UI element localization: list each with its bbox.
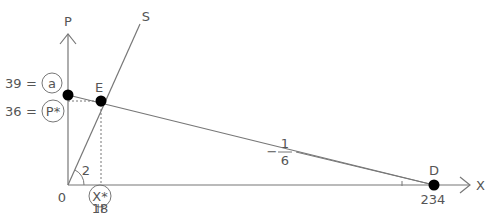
- point-e: [96, 96, 107, 107]
- demand-slope-sign: −: [267, 144, 278, 159]
- point-d-label: D: [429, 163, 439, 178]
- p-star-label: P*: [46, 104, 61, 119]
- demand-slope-numerator: 1: [281, 136, 289, 151]
- point-d-value-label: 234: [421, 192, 446, 207]
- a-value-label: 39: [5, 76, 22, 91]
- a-equals: =: [26, 76, 37, 91]
- point-a: [63, 90, 74, 101]
- p-star-value-label: 36: [5, 104, 22, 119]
- supply-line-label: S: [142, 9, 150, 24]
- slope-indicator-line: [296, 152, 434, 185]
- x-axis-label: X: [476, 178, 485, 193]
- point-d: [429, 180, 440, 191]
- x-star-value-label: 18: [92, 201, 109, 213]
- point-e-label: E: [95, 80, 103, 95]
- supply-demand-diagram: P X 0 S 2 E 39 = a 36 = P* X* || 18 D 23…: [0, 0, 485, 213]
- p-star-equals: =: [26, 104, 37, 119]
- p-axis: [60, 34, 76, 185]
- origin-label: 0: [58, 190, 66, 205]
- point-a-label: a: [48, 76, 56, 91]
- p-axis-label: P: [64, 14, 72, 29]
- demand-slope-denominator: 6: [281, 153, 289, 168]
- supply-slope-label: 2: [82, 163, 90, 178]
